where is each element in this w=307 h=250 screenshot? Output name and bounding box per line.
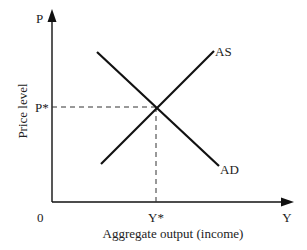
x-axis-label: Y <box>282 210 292 225</box>
as-curve-label: AS <box>215 44 232 59</box>
equilibrium-output-label: Y* <box>148 210 164 225</box>
ad-curve-label: AD <box>220 162 239 177</box>
x-axis-arrow-icon <box>281 198 294 207</box>
origin-label: 0 <box>37 210 44 225</box>
y-axis-title: Price level <box>15 83 30 139</box>
y-axis-label: P <box>36 11 43 26</box>
ad-as-diagram: P Price level P* 0 Y* Y Aggregate output… <box>0 0 307 250</box>
x-axis-title: Aggregate output (income) <box>103 226 244 241</box>
equilibrium-price-label: P* <box>35 100 49 115</box>
y-axis <box>48 9 57 202</box>
y-axis-arrow-icon <box>48 9 57 22</box>
x-axis <box>52 198 294 207</box>
